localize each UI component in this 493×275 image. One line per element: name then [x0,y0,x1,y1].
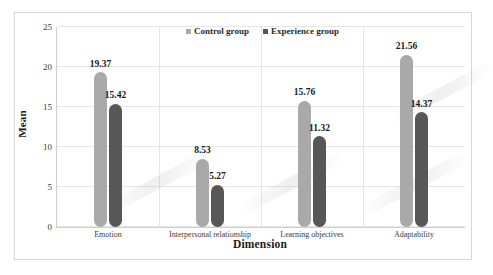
y-axis-tick-label: 15 [26,103,52,112]
square-marker-icon [263,29,268,34]
legend-item[interactable]: Control group [186,26,249,36]
y-axis-tick-label: 5 [26,183,52,192]
bar-value-label: 5.27 [205,172,231,182]
bar-value-label: 14.37 [409,100,435,110]
bar[interactable] [196,159,209,227]
bar-value-label: 21.56 [394,42,420,52]
bar[interactable] [109,104,122,227]
bar[interactable] [415,112,428,227]
legend-item-label: Control group [194,26,249,36]
y-axis-tick-labels: 0510152025 [22,0,52,275]
gridline-vertical [159,27,160,227]
bar-value-label: 15.42 [103,91,129,101]
bar-value-label: 8.53 [190,146,216,156]
square-marker-icon [186,29,191,34]
bar-value-label: 19.37 [88,60,114,70]
bar-value-label: 11.32 [307,124,333,134]
bar[interactable] [211,185,224,227]
legend-item[interactable]: Experience group [263,26,339,36]
bar-value-label: 15.76 [292,88,318,98]
bar[interactable] [400,55,413,227]
chart-legend: Control groupExperience group [186,26,339,36]
y-axis-tick-label: 20 [26,63,52,72]
y-axis-tick-label: 0 [26,223,52,232]
bar[interactable] [313,136,326,227]
y-axis-tick-label: 10 [26,143,52,152]
gridline-vertical [363,27,364,227]
gridline-vertical [261,27,262,227]
y-axis-tick-label: 25 [26,23,52,32]
bar[interactable] [298,101,311,227]
plot-area: 19.3715.42Emotion8.535.27Interpersonal r… [56,27,465,228]
legend-item-label: Experience group [271,26,339,36]
watermark-streak [241,152,344,214]
x-axis-title: Dimension [56,238,464,250]
